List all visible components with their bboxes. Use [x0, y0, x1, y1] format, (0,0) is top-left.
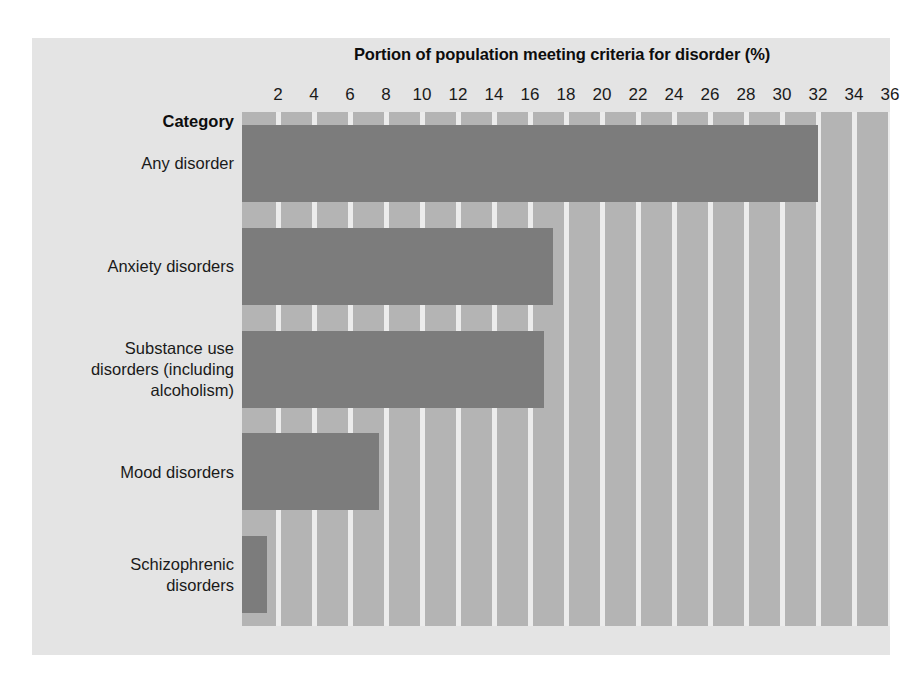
- x-tick-label: 12: [438, 84, 478, 106]
- x-tick-label: 28: [726, 84, 766, 106]
- chart-card: Portion of population meeting criteria f…: [32, 38, 890, 655]
- x-axis-tick-labels: 24681012141618202224262830323436: [242, 84, 890, 108]
- category-label-line: Any disorder: [32, 153, 234, 174]
- x-tick-label: 20: [582, 84, 622, 106]
- category-label: Schizophrenicdisorders: [32, 554, 234, 596]
- x-tick-label: 24: [654, 84, 694, 106]
- bar: [242, 125, 818, 202]
- category-label-line: alcoholism): [32, 380, 234, 401]
- x-tick-label: 34: [834, 84, 874, 106]
- x-tick-label: 6: [330, 84, 370, 106]
- x-tick-label: 32: [798, 84, 838, 106]
- category-label-line: disorders: [32, 575, 234, 596]
- category-label-line: Anxiety disorders: [32, 256, 234, 277]
- bar: [242, 433, 379, 510]
- bar: [242, 536, 267, 613]
- x-tick-label: 36: [870, 84, 910, 106]
- x-tick-label: 18: [546, 84, 586, 106]
- chart-title: Portion of population meeting criteria f…: [242, 45, 882, 64]
- x-tick-label: 8: [366, 84, 406, 106]
- x-tick-label: 30: [762, 84, 802, 106]
- category-label: Anxiety disorders: [32, 256, 234, 277]
- plot-area: [242, 112, 890, 626]
- x-tick-label: 10: [402, 84, 442, 106]
- category-label-line: Schizophrenic: [32, 554, 234, 575]
- category-label-line: Substance use: [32, 338, 234, 359]
- category-label: Any disorder: [32, 153, 234, 174]
- category-axis-labels: Any disorderAnxiety disordersSubstance u…: [32, 112, 234, 626]
- x-tick-label: 26: [690, 84, 730, 106]
- x-tick-label: 4: [294, 84, 334, 106]
- category-label-line: Mood disorders: [32, 461, 234, 482]
- x-tick-label: 22: [618, 84, 658, 106]
- x-tick-label: 2: [258, 84, 298, 106]
- category-label-line: disorders (including: [32, 359, 234, 380]
- x-tick-label: 16: [510, 84, 550, 106]
- category-label: Substance usedisorders (includingalcohol…: [32, 338, 234, 401]
- gridline: [888, 112, 890, 626]
- bar: [242, 228, 553, 305]
- x-tick-label: 14: [474, 84, 514, 106]
- gridline: [852, 112, 857, 626]
- category-label: Mood disorders: [32, 461, 234, 482]
- bar: [242, 331, 544, 408]
